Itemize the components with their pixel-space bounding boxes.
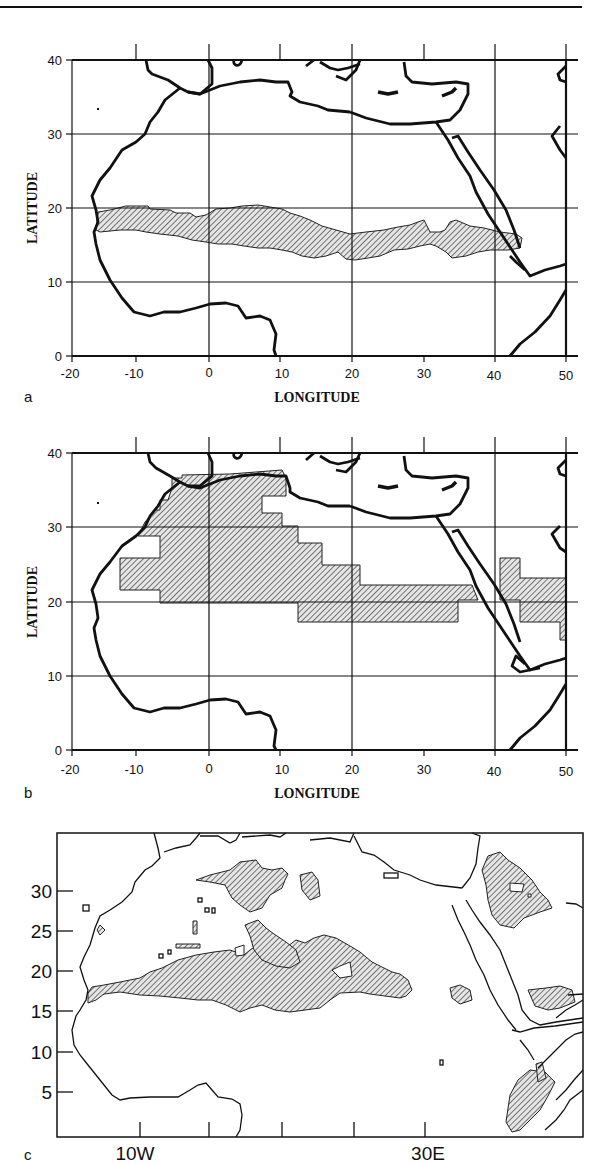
panel-a-y-tick-labels: 40 30 20 10 0 <box>48 53 62 364</box>
svg-text:10: 10 <box>275 366 289 381</box>
svg-text:10: 10 <box>48 669 62 684</box>
panel-b-hatched-region <box>120 470 478 622</box>
panel-c: 30 25 20 15 10 5 10W 30E c <box>24 833 583 1164</box>
svg-text:5: 5 <box>41 1082 52 1103</box>
svg-text:40: 40 <box>48 446 62 461</box>
panel-b-letter: b <box>24 784 32 801</box>
svg-text:10W: 10W <box>115 1143 154 1164</box>
figure: 40 30 20 10 0 -20 -10 0 10 20 30 40 50 L… <box>0 0 604 1165</box>
panel-a-ylabel: LATITUDE <box>25 172 40 244</box>
panel-b-ylabel: LATITUDE <box>25 566 40 638</box>
panel-b-xlabel: LONGITUDE <box>274 786 360 801</box>
panel-a-xlabel: LONGITUDE <box>274 390 360 405</box>
svg-text:20: 20 <box>48 201 62 216</box>
panel-c-y-tick-labels: 30 25 20 15 10 5 <box>31 881 52 1103</box>
panel-a: 40 30 20 10 0 -20 -10 0 10 20 30 40 50 L… <box>24 44 578 405</box>
svg-text:10: 10 <box>31 1042 52 1063</box>
svg-text:-20: -20 <box>61 762 80 777</box>
svg-text:40: 40 <box>487 368 501 383</box>
panel-b-x-tick-labels: -20 -10 0 10 20 30 40 50 <box>61 761 574 779</box>
svg-text:30: 30 <box>48 127 62 142</box>
svg-text:25: 25 <box>31 921 52 942</box>
panel-c-x-tick-labels: 10W 30E <box>115 1143 444 1164</box>
svg-text:-10: -10 <box>125 762 144 777</box>
panel-c-letter: c <box>24 1146 32 1163</box>
svg-text:20: 20 <box>48 595 62 610</box>
svg-text:40: 40 <box>487 764 501 779</box>
svg-text:0: 0 <box>55 743 62 758</box>
svg-text:-20: -20 <box>61 366 80 381</box>
svg-text:30: 30 <box>31 881 52 902</box>
svg-text:30: 30 <box>417 762 431 777</box>
panel-b-hatched-region-arabia <box>500 558 566 640</box>
panel-a-x-tick-labels: -20 -10 0 10 20 30 40 50 <box>61 365 574 383</box>
svg-text:20: 20 <box>31 961 52 982</box>
svg-text:30E: 30E <box>411 1143 445 1164</box>
svg-text:10: 10 <box>275 762 289 777</box>
svg-text:30: 30 <box>48 520 62 535</box>
panel-b-y-tick-labels: 40 30 20 10 0 <box>48 446 62 758</box>
svg-text:0: 0 <box>205 365 212 380</box>
panel-a-letter: a <box>24 388 33 405</box>
panel-b: 40 30 20 10 0 -20 -10 0 10 20 30 40 50 L… <box>24 437 578 801</box>
svg-text:20: 20 <box>345 762 359 777</box>
svg-text:40: 40 <box>48 53 62 68</box>
svg-text:15: 15 <box>31 1001 52 1022</box>
svg-text:50: 50 <box>559 368 573 383</box>
svg-text:0: 0 <box>55 349 62 364</box>
svg-text:50: 50 <box>559 764 573 779</box>
svg-text:20: 20 <box>345 366 359 381</box>
svg-text:-10: -10 <box>125 366 144 381</box>
svg-text:10: 10 <box>48 275 62 290</box>
svg-text:30: 30 <box>417 366 431 381</box>
panel-a-hatched-region <box>96 205 522 260</box>
svg-text:0: 0 <box>205 761 212 776</box>
